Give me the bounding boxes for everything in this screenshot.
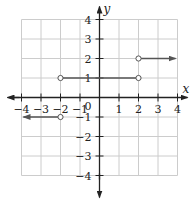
y-tick-label: −3 xyxy=(75,150,91,163)
origin-label: 0 xyxy=(85,100,92,113)
y-tick-label: 2 xyxy=(85,53,92,66)
x-axis-label: x xyxy=(183,82,190,96)
y-tick-label: 3 xyxy=(85,33,92,46)
open-endpoint xyxy=(136,56,141,61)
y-tick-label: −2 xyxy=(75,131,91,144)
y-tick-label: −4 xyxy=(75,170,91,183)
x-tick-label: 1 xyxy=(116,103,123,116)
x-tick-label: −4 xyxy=(13,103,29,116)
y-tick-label: −1 xyxy=(75,111,91,124)
x-tick-label: 3 xyxy=(155,103,162,116)
x-tick-label: −3 xyxy=(33,103,49,116)
y-tick-label: 4 xyxy=(85,14,92,27)
y-axis-label: y xyxy=(103,2,111,16)
step-function-graph: −4−3−2−11234−4−3−2−112340xy xyxy=(0,0,195,199)
open-endpoint xyxy=(58,75,63,80)
open-endpoint xyxy=(136,75,141,80)
x-tick-label: 2 xyxy=(135,103,142,116)
x-tick-label: −2 xyxy=(52,103,68,116)
x-tick-label: 4 xyxy=(174,103,181,116)
open-endpoint xyxy=(58,114,63,119)
